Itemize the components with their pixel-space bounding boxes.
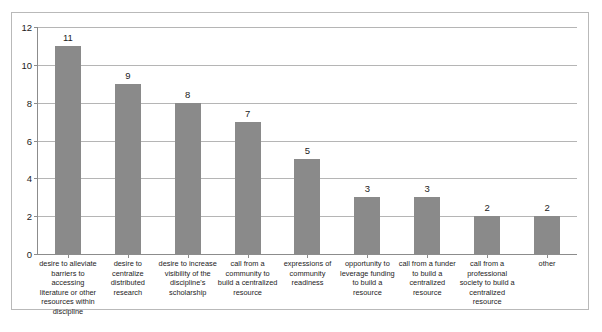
bar[interactable]	[294, 159, 320, 254]
x-axis-category-label: call from a funder to build a centralize…	[397, 259, 457, 297]
x-axis-category-label: desire to increase visibility of the dis…	[158, 259, 218, 297]
bar[interactable]	[534, 216, 560, 254]
bar[interactable]	[175, 103, 201, 254]
bar-value-label: 2	[485, 202, 490, 213]
bar-slot: 2	[457, 27, 517, 254]
x-axis-tick-mark	[68, 254, 69, 258]
y-axis-tick-label: 12	[21, 22, 32, 33]
x-axis-labels-group: desire to alleviate barriers to accessin…	[38, 259, 577, 309]
bar-slot: 11	[38, 27, 98, 254]
y-axis-tick-label: 8	[27, 97, 32, 108]
x-axis-category-label: expressions of community readiness	[278, 259, 338, 288]
x-axis-tick-mark	[248, 254, 249, 258]
x-axis-tick-mark	[307, 254, 308, 258]
y-axis-tick-mark	[34, 254, 38, 255]
y-axis-tick-label: 2	[27, 211, 32, 222]
bar-slot: 8	[158, 27, 218, 254]
bar-slot: 9	[98, 27, 158, 254]
x-axis-tick-mark	[487, 254, 488, 258]
plot-area: 024681012 1198753322	[37, 27, 577, 255]
x-axis-category-label: call from a community to build a central…	[218, 259, 278, 297]
x-axis-tick-mark	[128, 254, 129, 258]
bar-value-label: 7	[245, 108, 250, 119]
bar[interactable]	[354, 197, 380, 254]
cut-off-caption-strip	[0, 0, 602, 6]
bar[interactable]	[115, 84, 141, 254]
bar-value-label: 3	[425, 183, 430, 194]
x-axis-category-label: desire to alleviate barriers to accessin…	[38, 259, 98, 317]
x-axis-category-label: call from a professional society to buil…	[457, 259, 517, 307]
x-axis-tick-mark	[427, 254, 428, 258]
x-axis-tick-mark	[367, 254, 368, 258]
bar-value-label: 8	[185, 89, 190, 100]
x-axis-category-label: other	[517, 259, 577, 269]
bar-slot: 3	[397, 27, 457, 254]
y-axis-tick-label: 10	[21, 59, 32, 70]
bars-group: 1198753322	[38, 27, 577, 254]
bar-slot: 5	[278, 27, 338, 254]
bar-value-label: 11	[63, 32, 73, 43]
x-axis-tick-mark	[547, 254, 548, 258]
y-axis-tick-label: 0	[27, 249, 32, 260]
bar[interactable]	[414, 197, 440, 254]
x-axis-category-label: opportunity to leverage funding to build…	[337, 259, 397, 297]
y-axis-tick-label: 6	[27, 135, 32, 146]
bar-value-label: 9	[125, 70, 130, 81]
bar-slot: 3	[337, 27, 397, 254]
bar-value-label: 5	[305, 145, 310, 156]
bar[interactable]	[55, 46, 81, 254]
y-axis-tick-label: 4	[27, 173, 32, 184]
bar[interactable]	[235, 122, 261, 254]
x-axis-category-label: desire to centralize distributed researc…	[98, 259, 158, 297]
bar-slot: 2	[517, 27, 577, 254]
bar-chart-figure: 024681012 1198753322 desire to alleviate…	[11, 12, 589, 310]
x-axis-tick-mark	[188, 254, 189, 258]
bar-slot: 7	[218, 27, 278, 254]
bar[interactable]	[474, 216, 500, 254]
bar-value-label: 2	[544, 202, 549, 213]
bar-value-label: 3	[365, 183, 370, 194]
